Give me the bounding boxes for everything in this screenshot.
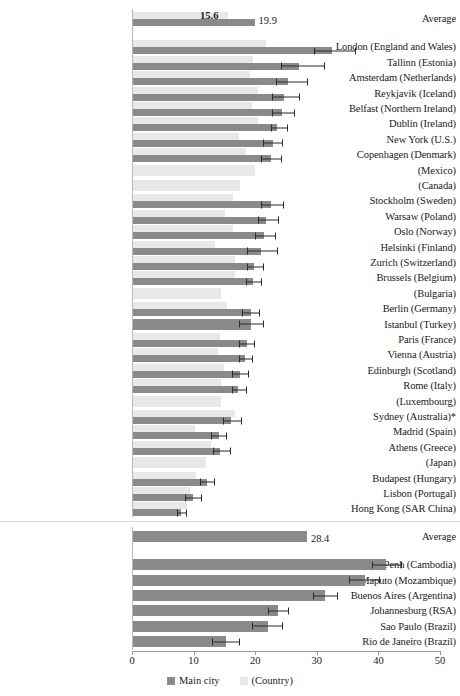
bar-group [132, 557, 460, 573]
x-axis-tick-label: 20 [250, 655, 261, 667]
bar-group [132, 603, 460, 619]
table-row: Johannesburg (RSA) [0, 603, 460, 619]
table-row: Brussels (Belgium) [0, 270, 460, 286]
error-bar-cap-high [355, 47, 356, 54]
error-bar-line [258, 220, 280, 221]
error-bar-line [242, 312, 260, 313]
table-row: Warsaw (Poland) [0, 209, 460, 225]
x-axis-tick-label: 50 [435, 655, 446, 667]
error-bar-cap-low [314, 47, 315, 54]
main-city-bar [132, 124, 277, 131]
error-bar-line [263, 143, 283, 144]
main-city-bar [132, 201, 271, 208]
error-bar-cap-low [242, 309, 243, 316]
bar-group [132, 378, 460, 394]
table-row: Istanbul (Turkey) [0, 317, 460, 333]
country-bar [132, 210, 225, 217]
error-bar [252, 621, 283, 632]
country-bar [132, 379, 221, 386]
country-bar [132, 40, 266, 47]
error-bar-cap-high [214, 479, 215, 486]
table-row: (Mexico) [0, 163, 460, 179]
bar-group [132, 347, 460, 363]
legend-label: Main city [179, 675, 220, 686]
error-bar-cap-high [307, 78, 308, 85]
error-bar-line [200, 482, 214, 483]
error-bar-cap-high [278, 217, 279, 224]
table-row: Sao Paulo (Brazil) [0, 619, 460, 635]
error-bar-line [261, 158, 281, 159]
error-bar-cap-high [252, 355, 253, 362]
table-row: (Japan) [0, 455, 460, 471]
error-bar-cap-high [299, 94, 300, 101]
x-axis-tick-label: 0 [129, 655, 134, 667]
zero-axis-line-1 [132, 527, 133, 650]
error-bar-cap-low [239, 355, 240, 362]
error-bar-cap-high [239, 638, 240, 645]
country-bar [132, 487, 190, 494]
error-bar-cap-low [200, 479, 201, 486]
bar-group [132, 424, 460, 440]
error-bar [223, 417, 243, 424]
country-bar [132, 71, 250, 78]
error-bar-cap-low [223, 417, 224, 424]
table-row: Hong Kong (SAR China) [0, 501, 460, 517]
country-bar [132, 194, 233, 201]
error-bar-cap-high [254, 340, 255, 347]
error-bar-line [185, 497, 202, 498]
bar-group [132, 224, 460, 240]
table-row: New York (U.S.) [0, 132, 460, 148]
error-bar-cap-low [372, 561, 373, 568]
bar-group [132, 455, 460, 471]
error-bar-cap-low [313, 592, 314, 599]
error-bar-cap-high [246, 386, 247, 393]
error-bar-cap-high [241, 417, 242, 424]
error-bar-line [276, 81, 308, 82]
main-city-bar [132, 217, 266, 224]
country-bar [132, 271, 235, 278]
table-row: Oslo (Norway) [0, 224, 460, 240]
country-bar [132, 364, 224, 371]
x-axis-tick-label: 30 [312, 655, 323, 667]
table-row: Vienna (Austria) [0, 347, 460, 363]
error-bar-cap-low [213, 448, 214, 455]
main-city-bar [132, 278, 253, 285]
country-bar [132, 441, 211, 448]
x-axis-tick-label: 10 [188, 655, 199, 667]
error-bar [271, 124, 288, 131]
main-city-bar [132, 448, 220, 455]
error-bar-cap-low [261, 201, 262, 208]
country-bar [132, 472, 196, 479]
main-city-bar [132, 309, 251, 316]
error-bar-cap-low [246, 278, 247, 285]
error-bar-line [255, 235, 275, 236]
main-city-bar [132, 319, 251, 330]
country-bar [132, 302, 227, 309]
error-bar-line [252, 626, 283, 627]
error-bar-cap-high [275, 232, 276, 239]
main-city-bar [132, 559, 386, 570]
error-bar [232, 371, 249, 378]
error-bar-cap-high [281, 155, 282, 162]
error-bar-cap-low [232, 386, 233, 393]
error-bar [261, 201, 283, 208]
table-row: Zurich (Switzerland) [0, 255, 460, 271]
country-bar [132, 165, 255, 176]
country-bar [132, 148, 246, 155]
error-bar-cap-low [247, 248, 248, 255]
bar-group [132, 255, 460, 271]
error-bar-cap-low [272, 94, 273, 101]
main-city-bar [132, 47, 332, 54]
error-bar [239, 355, 254, 362]
error-bar-line [349, 580, 380, 581]
error-bar-cap-high [230, 448, 231, 455]
bar-group: 15.619.9 [132, 11, 460, 27]
main-city-bar [132, 621, 268, 632]
table-row: London (England and Wales) [0, 39, 460, 55]
country-bar [132, 180, 240, 191]
bar-group [132, 440, 460, 456]
table-row: Edinburgh (Scotland) [0, 363, 460, 379]
main-city-bar [132, 494, 193, 501]
error-bar-cap-high [277, 248, 278, 255]
country-bar [132, 333, 220, 340]
